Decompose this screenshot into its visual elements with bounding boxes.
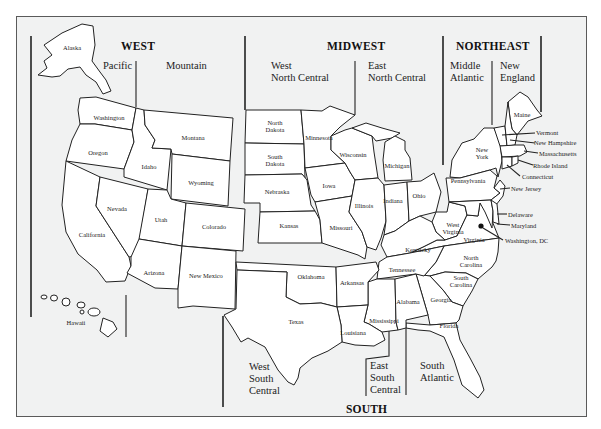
- label-georgia: Georgia: [431, 296, 452, 303]
- division-west-north-central: West North Central: [271, 60, 329, 84]
- island-hawaii-4: [77, 302, 85, 308]
- label-colorado: Colorado: [202, 223, 226, 230]
- division-esc-line2: South: [370, 372, 401, 384]
- label-ny-line1: New: [476, 146, 489, 153]
- state-massachusetts: [500, 145, 527, 157]
- label-washington: Washington: [94, 114, 125, 121]
- island-hawaii-1: [41, 295, 47, 299]
- region-midwest: MIDWEST: [327, 40, 385, 52]
- division-south-atlantic: South Atlantic: [420, 360, 454, 384]
- label-wisconsin: Wisconsin: [339, 151, 366, 158]
- division-sa-line1: South: [420, 360, 454, 372]
- label-north-carolina: North Carolina: [460, 254, 482, 268]
- label-wv-line2: Virginia: [442, 228, 463, 235]
- state-michigan: [383, 136, 412, 181]
- division-enc-line1: East: [368, 60, 426, 72]
- division-ma-line2: Atlantic: [450, 72, 484, 84]
- label-virginia: Virginia: [463, 236, 484, 243]
- division-wnc-line1: West: [271, 60, 329, 72]
- label-louisiana: Louisiana: [340, 329, 366, 336]
- label-california: California: [79, 231, 105, 238]
- division-esc-line1: East: [370, 360, 401, 372]
- label-south-dakota: South Dakota: [266, 153, 285, 167]
- division-wnc-line2: North Central: [271, 72, 329, 84]
- division-wsc-line1: West: [249, 361, 280, 373]
- label-north-dakota: North Dakota: [266, 119, 285, 133]
- label-sc-line2: Carolina: [450, 281, 472, 288]
- label-arizona: Arizona: [144, 269, 165, 276]
- region-northeast: NORTHEAST: [456, 40, 530, 52]
- state-rhode-island: [512, 156, 518, 166]
- label-wv-line1: West: [442, 221, 463, 228]
- label-pennsylvania: Pennsylvania: [451, 177, 486, 184]
- division-ne-line1: New: [500, 60, 535, 72]
- label-mississippi: Mississippi: [369, 317, 399, 324]
- callout-massachusetts: Massachusetts: [539, 150, 577, 157]
- label-michigan: Michigan: [385, 162, 410, 169]
- label-texas: Texas: [288, 318, 303, 325]
- island-hawaii-3: [62, 298, 70, 306]
- division-new-england: New England: [500, 60, 535, 84]
- label-wyoming: Wyoming: [188, 179, 214, 186]
- connecticut-leader: [507, 165, 520, 176]
- label-hawaii: Hawaii: [67, 319, 86, 326]
- label-sd-line2: Dakota: [266, 160, 285, 167]
- rhode-island-leader: [518, 160, 533, 165]
- division-middle-atlantic: Middle Atlantic: [450, 60, 484, 84]
- label-iowa: Iowa: [323, 182, 336, 189]
- label-nc-line2: Carolina: [460, 261, 482, 268]
- division-wsc-line3: Central: [249, 385, 280, 397]
- island-hawaii-6: [88, 308, 100, 316]
- region-west: WEST: [121, 40, 155, 52]
- label-sc-line1: South: [450, 274, 472, 281]
- label-tennessee: Tennessee: [389, 266, 416, 273]
- label-ohio: Ohio: [413, 192, 426, 199]
- label-idaho: Idaho: [142, 163, 157, 170]
- label-new-mexico: New Mexico: [189, 272, 223, 279]
- callout-connecticut: Connecticut: [522, 173, 553, 180]
- label-nd-line1: North: [266, 119, 285, 126]
- island-hawaii-big: [100, 318, 117, 337]
- division-mountain: Mountain: [166, 60, 207, 72]
- callout-rhode-island: Rhode Island: [533, 162, 567, 169]
- state-arizona: [127, 239, 182, 289]
- island-hawaii-2: [51, 295, 58, 301]
- division-wsc-line2: South: [249, 373, 280, 385]
- division-east-south-central: East South Central: [370, 360, 401, 396]
- label-west-virginia: West Virginia: [442, 221, 463, 235]
- label-missouri: Missouri: [329, 224, 352, 231]
- label-illinois: Illinois: [355, 202, 373, 209]
- label-maine: Maine: [514, 111, 531, 118]
- state-connecticut: [502, 157, 512, 169]
- division-enc-line2: North Central: [368, 72, 426, 84]
- label-florida: Florida: [440, 322, 459, 329]
- label-nebraska: Nebraska: [265, 188, 290, 195]
- division-sa-line2: Atlantic: [420, 372, 454, 384]
- label-kansas: Kansas: [280, 222, 299, 229]
- callout-vermont: Vermont: [536, 129, 558, 136]
- label-oklahoma: Oklahoma: [297, 273, 324, 280]
- callout-maryland: Maryland: [511, 222, 536, 229]
- label-nevada: Nevada: [107, 205, 127, 212]
- label-south-carolina: South Carolina: [450, 274, 472, 288]
- region-south: SOUTH: [346, 403, 387, 415]
- state-alaska: [38, 24, 111, 94]
- washington-dc-marker: [478, 223, 483, 228]
- label-alabama: Alabama: [396, 298, 419, 305]
- label-new-york: New York: [476, 146, 489, 160]
- label-sd-line1: South: [266, 153, 285, 160]
- island-hawaii-5: [80, 310, 84, 314]
- state-oregon: [66, 124, 134, 169]
- division-pacific: Pacific: [103, 60, 132, 72]
- callout-washington-dc: Washington, DC: [505, 237, 548, 244]
- callout-delaware: Delaware: [508, 211, 533, 218]
- label-minnesota: Minnesota: [305, 134, 332, 141]
- label-montana: Montana: [181, 134, 204, 141]
- division-esc-line3: Central: [370, 384, 401, 396]
- label-indiana: Indiana: [383, 197, 403, 204]
- callout-new-hampshire: New Hampshire: [534, 139, 576, 146]
- division-east-north-central: East North Central: [368, 60, 426, 84]
- division-ma-line1: Middle: [450, 60, 484, 72]
- division-ne-line2: England: [500, 72, 535, 84]
- label-oregon: Oregon: [88, 149, 108, 156]
